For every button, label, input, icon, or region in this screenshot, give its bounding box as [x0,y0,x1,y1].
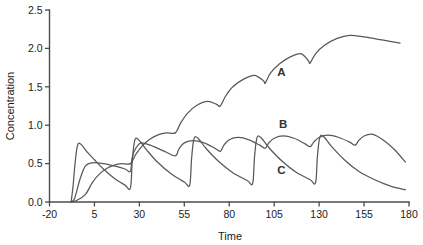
series-label-a: A [277,66,285,78]
y-tick-label: 1.0 [28,119,43,131]
x-tick-label: 180 [400,208,418,220]
x-axis-title: Time [218,230,242,242]
y-axis-title: Concentration [4,72,16,141]
y-tick-label: 1.5 [28,81,43,93]
series-curve-b [71,134,405,202]
y-tick-label: 0.5 [28,157,43,169]
x-tick-label: 80 [223,208,235,220]
x-tick-label: 130 [310,208,328,220]
x-tick-label: 155 [355,208,373,220]
x-tick-label: 55 [178,208,190,220]
series-curve-a [71,35,400,202]
y-tick-label: 0.0 [28,196,43,208]
y-tick-label: 2.0 [28,42,43,54]
series-curves-group [71,35,405,202]
x-tick-label: -20 [42,208,57,220]
series-label-c: C [277,164,285,176]
x-tick-label: 30 [134,208,146,220]
y-tick-label: 2.5 [28,4,43,16]
series-label-b: B [279,118,287,130]
concentration-time-chart: 0.00.51.01.52.02.5-205305580105130155180… [0,0,423,245]
chart-svg: 0.00.51.01.52.02.5-205305580105130155180… [0,0,423,245]
x-tick-label: 5 [92,208,98,220]
series-annotations-group: ABC [277,66,287,176]
x-tick-label: 105 [265,208,283,220]
